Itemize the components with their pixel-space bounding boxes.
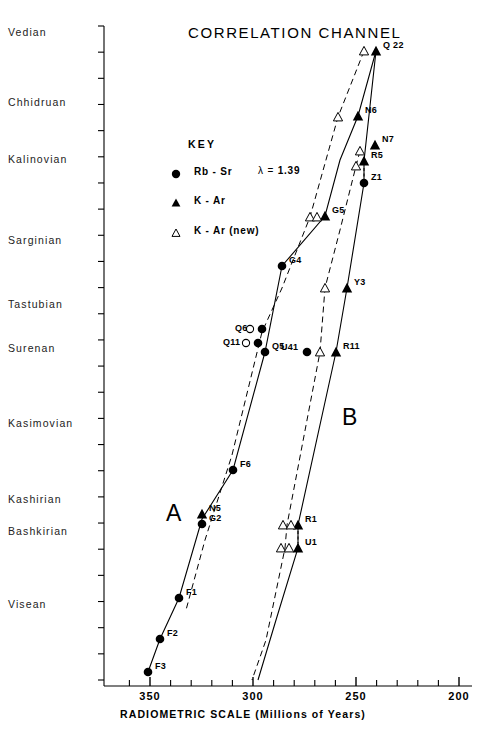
data-point-label: U41 [281,342,298,352]
data-point-filled-triangle [342,283,352,293]
data-point-label: R1 [305,514,317,524]
data-point-filled-triangle [353,111,363,121]
data-point-label: F1 [186,587,197,597]
stage-label-tastubian: Tastubian [8,298,63,310]
correlation-curve-a-new [186,51,364,610]
data-point-open-triangle [315,347,324,356]
data-point-filled-circle [258,325,267,334]
data-point-filled-circle [175,594,184,603]
data-point-filled-circle [278,262,287,271]
correlation-chart-figure: CORRELATION CHANNEL KEY Rb - Sr λ = 1.39… [0,0,486,733]
stage-label-surenan: Surenan [8,342,55,354]
data-point-filled-circle [198,520,207,529]
correlation-curve-a [148,51,376,672]
data-point-filled-circle [229,466,238,475]
data-point-label: Q6 [235,323,248,333]
plot-canvas [0,0,486,733]
data-point-filled-triangle [370,140,380,150]
data-point-label: N6 [365,105,377,115]
x-tick-label: 250 [345,690,366,702]
data-point-open-triangle [286,520,295,529]
stage-label-kashirian: Kashirian [8,493,62,505]
data-point-filled-circle [156,635,165,644]
data-point-label: F6 [240,459,251,469]
stage-label-kasimovian: Kasimovian [8,417,73,429]
data-point-open-triangle [333,112,342,121]
data-point-filled-triangle [359,156,369,166]
data-point-open-triangle [351,161,360,170]
stage-label-vedian: Vedian [8,26,47,38]
data-point-open-triangle [312,212,321,221]
data-point-filled-triangle [293,543,303,553]
data-point-filled-triangle [331,347,341,357]
data-point-filled-triangle [371,46,381,56]
data-point-label: Q11 [223,337,240,347]
data-point-label: U1 [305,537,317,547]
x-axis-title: RADIOMETRIC SCALE (Millions of Years) [120,708,366,720]
stage-label-visean: Visean [8,598,47,610]
x-tick-label: 300 [242,690,263,702]
data-point-open-triangle [355,146,364,155]
curve-annotation-b: B [342,404,357,431]
x-tick-label: 350 [139,690,160,702]
data-point-label: G4 [289,255,302,265]
stage-label-chhidruan: Chhidruan [8,96,66,108]
data-point-open-triangle [276,543,285,552]
data-point-label: Z1 [371,172,382,182]
curve-annotation-a: A [166,500,181,527]
data-point-filled-circle [254,339,263,348]
data-point-filled-circle [360,179,369,188]
x-tick-label: 200 [448,690,469,702]
data-point-open-circle [242,339,249,346]
data-point-open-triangle [278,520,287,529]
data-point-filled-triangle [320,211,330,221]
data-point-label: R5 [371,150,383,160]
data-point-filled-circle [261,348,270,357]
data-point-label: F3 [155,661,166,671]
data-point-filled-circle [144,668,153,677]
data-point-label: G5 [332,205,345,215]
stage-label-sarginian: Sarginian [8,234,62,246]
data-point-label: Q 22 [383,40,404,50]
data-point-label: G2 [209,513,222,523]
data-point-label: F2 [167,628,178,638]
data-point-label: Y3 [354,277,366,287]
data-point-label: N7 [382,134,394,144]
correlation-curve-b [258,51,376,680]
data-point-label: N5 [209,503,221,513]
stage-label-kalinovian: Kalinovian [8,153,67,165]
stage-label-bashkirian: Bashkirian [8,525,68,537]
data-point-open-triangle [320,283,329,292]
data-point-open-triangle [359,46,368,55]
data-point-filled-circle [303,348,312,357]
data-point-label: R11 [343,341,360,351]
